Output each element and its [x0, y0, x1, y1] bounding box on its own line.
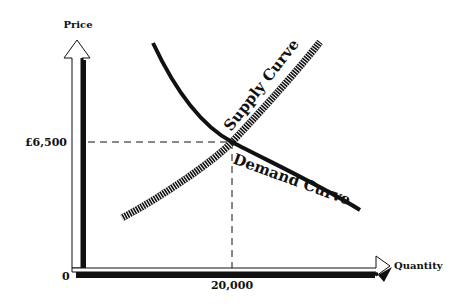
demand-curve-label: Demand Curve	[231, 150, 353, 209]
x-axis-title: Quantity	[394, 260, 444, 271]
supply-curve-label: Supply Curve	[220, 36, 303, 135]
price-tick-label: £6,500	[25, 136, 67, 149]
supply-demand-chart: Price Quantity 0 £6,500 20,000 Supply Cu…	[0, 0, 471, 305]
quantity-tick-label: 20,000	[211, 279, 253, 292]
origin-label: 0	[62, 270, 70, 283]
supply-curve	[122, 42, 320, 218]
y-axis-title: Price	[63, 19, 92, 30]
y-axis-arrow	[64, 40, 90, 270]
